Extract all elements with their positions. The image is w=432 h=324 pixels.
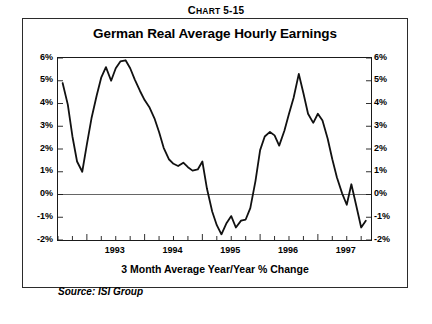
- y-axis-label-left: -2%: [37, 235, 53, 244]
- x-axis-label: 1995: [220, 245, 240, 255]
- figure-source-note: Source: ISI Group: [58, 286, 143, 297]
- y-axis-label-right: 0%: [374, 189, 387, 198]
- figure-subtitle: 3 Month Average Year/Year % Change: [22, 263, 408, 275]
- y-axis-label-left: 6%: [40, 53, 53, 62]
- y-axis-label-right: 3%: [374, 121, 387, 130]
- y-axis-label-right: 6%: [374, 53, 387, 62]
- y-axis-label-left: -1%: [37, 212, 53, 221]
- x-axis-label: 1996: [278, 245, 298, 255]
- y-axis-label-left: 4%: [40, 98, 53, 107]
- chart-number-value: 5-15: [223, 5, 244, 16]
- y-axis-right: 6%5%4%3%2%1%0%-1%-2%: [374, 57, 402, 240]
- y-axis-label-left: 5%: [40, 75, 53, 84]
- y-axis-label-right: -2%: [374, 235, 390, 244]
- y-axis-label-left: 2%: [40, 144, 53, 153]
- x-axis-label: 1994: [162, 245, 182, 255]
- y-axis-label-left: 0%: [40, 189, 53, 198]
- x-axis-label: 1997: [336, 245, 356, 255]
- y-axis-label-left: 1%: [40, 166, 53, 175]
- y-axis-left: 6%5%4%3%2%1%0%-1%-2%: [25, 57, 53, 240]
- y-axis-label-right: 1%: [374, 166, 387, 175]
- x-axis-labels: 19931994199519961997: [57, 245, 370, 257]
- figure-title: German Real Average Hourly Earnings: [22, 26, 408, 41]
- y-axis-label-right: 2%: [374, 144, 387, 153]
- y-axis-label-right: 4%: [374, 98, 387, 107]
- data-series-line: [63, 60, 366, 234]
- chart-label-rest: HART: [196, 6, 220, 16]
- plot-area: [57, 57, 372, 241]
- plot-svg: [58, 58, 371, 240]
- chart-number-header: CHART 5-15: [0, 4, 432, 16]
- y-axis-label-left: 3%: [40, 121, 53, 130]
- chart-label-lead: C: [188, 4, 196, 16]
- y-axis-label-right: -1%: [374, 212, 390, 221]
- x-axis-label: 1993: [105, 245, 125, 255]
- axis-ticks: [58, 58, 371, 240]
- y-axis-label-right: 5%: [374, 75, 387, 84]
